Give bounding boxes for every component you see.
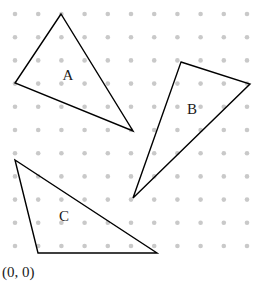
grid-dot <box>13 128 18 133</box>
grid-dot <box>152 197 157 202</box>
grid-dot <box>82 244 87 249</box>
grid-dot <box>129 58 134 63</box>
grid-dot <box>82 128 87 133</box>
grid-dot <box>175 174 180 179</box>
triangle-c-label: C <box>59 208 69 224</box>
grid-dot <box>36 81 41 86</box>
grid-dot <box>82 105 87 110</box>
grid-dot <box>59 128 64 133</box>
triangle-b-label: B <box>187 101 197 117</box>
grid-dot <box>152 221 157 226</box>
grid-dot <box>82 151 87 156</box>
grid-dot <box>13 244 18 249</box>
grid-dot <box>198 221 203 226</box>
grid-dot <box>175 221 180 226</box>
grid-dot <box>13 12 18 17</box>
grid-dot <box>59 197 64 202</box>
grid-dot <box>245 174 250 179</box>
grid-dot <box>245 151 250 156</box>
grid-dot <box>129 81 134 86</box>
grid-dot <box>129 221 134 226</box>
grid-dot <box>152 12 157 17</box>
grid-dot <box>175 197 180 202</box>
grid-dot <box>129 174 134 179</box>
grid-dot <box>36 105 41 110</box>
grid-dot <box>175 128 180 133</box>
grid-dot <box>152 81 157 86</box>
grid-dot <box>106 151 111 156</box>
grid-dot <box>152 244 157 249</box>
grid-dot <box>245 12 250 17</box>
grid-dot <box>59 174 64 179</box>
grid-dot <box>198 197 203 202</box>
grid-dot <box>175 244 180 249</box>
grid-dot <box>198 105 203 110</box>
geoboard-figure: ABC (0, 0) <box>0 0 267 284</box>
grid-dot <box>13 35 18 40</box>
grid-dot <box>198 174 203 179</box>
grid-dot <box>82 81 87 86</box>
grid-dot <box>59 105 64 110</box>
grid-dot <box>106 197 111 202</box>
grid-dot <box>245 197 250 202</box>
grid-dot <box>175 81 180 86</box>
grid-dot <box>106 105 111 110</box>
grid-dot <box>13 105 18 110</box>
grid-dot <box>36 197 41 202</box>
grid-dot <box>129 197 134 202</box>
grid-dot <box>222 244 227 249</box>
grid-dot <box>36 128 41 133</box>
grid-dot <box>198 151 203 156</box>
grid-dot <box>59 244 64 249</box>
grid-dot <box>245 221 250 226</box>
origin-label: (0, 0) <box>2 264 35 281</box>
grid-dot <box>36 12 41 17</box>
grid-dot <box>175 58 180 63</box>
grid-dot <box>59 151 64 156</box>
grid-dot <box>222 128 227 133</box>
grid-dot <box>59 35 64 40</box>
grid-dot <box>129 244 134 249</box>
grid-dot <box>106 12 111 17</box>
grid-dot <box>82 58 87 63</box>
grid-dot <box>129 12 134 17</box>
grid-dot <box>222 221 227 226</box>
grid-dot <box>222 197 227 202</box>
grid-dot <box>222 12 227 17</box>
grid-dot <box>222 35 227 40</box>
grid-dot <box>222 58 227 63</box>
grid-dot <box>36 221 41 226</box>
grid-dot <box>82 35 87 40</box>
grid-dot <box>222 81 227 86</box>
grid-dot <box>175 105 180 110</box>
grid-dot <box>198 12 203 17</box>
grid-dot <box>59 58 64 63</box>
grid-dot <box>13 197 18 202</box>
grid-dot <box>82 174 87 179</box>
grid-dot <box>152 151 157 156</box>
grid-dot <box>13 174 18 179</box>
grid-dot <box>222 151 227 156</box>
grid-dot <box>152 105 157 110</box>
grid-dot <box>82 221 87 226</box>
grid-dot <box>245 105 250 110</box>
grid-dot <box>13 221 18 226</box>
grid-dot <box>198 244 203 249</box>
grid-dot <box>82 12 87 17</box>
grid-dot <box>13 58 18 63</box>
grid-dot <box>106 174 111 179</box>
grid-dot <box>175 35 180 40</box>
grid-dot <box>152 35 157 40</box>
grid-dot <box>106 81 111 86</box>
grid-dot <box>198 58 203 63</box>
grid-dot <box>175 12 180 17</box>
grid-dot <box>82 197 87 202</box>
grid-dot <box>245 58 250 63</box>
triangle-a-label: A <box>63 67 74 83</box>
grid-dot <box>152 58 157 63</box>
grid-dot <box>13 151 18 156</box>
grid-dot <box>129 151 134 156</box>
grid-dot <box>36 35 41 40</box>
grid-dot <box>129 105 134 110</box>
grid-dot <box>36 151 41 156</box>
